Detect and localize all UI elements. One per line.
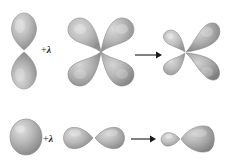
hybridization-row-2: +λ [0, 100, 227, 165]
arrow-row-1 [135, 50, 163, 60]
hybrid-orbital-two-lobe-asymmetric [160, 124, 216, 154]
hybrid-orbital-four-lobe-asymmetric [160, 22, 222, 82]
p-orbital-vertical [4, 12, 44, 90]
orbital-hybridization-figure: +λ [0, 0, 227, 165]
operator-plus-lambda-row-1: +λ [41, 45, 51, 55]
hybridization-row-1: +λ [0, 0, 227, 100]
p-orbital-horizontal [63, 124, 125, 152]
lambda-symbol-row-1: λ [47, 44, 51, 55]
d-orbital-four-lobe [66, 16, 136, 88]
arrow-row-2 [131, 134, 157, 144]
s-orbital-sphere [8, 118, 44, 156]
operator-plus-lambda-row-2: +λ [43, 134, 53, 144]
lambda-symbol-row-2: λ [49, 133, 53, 144]
